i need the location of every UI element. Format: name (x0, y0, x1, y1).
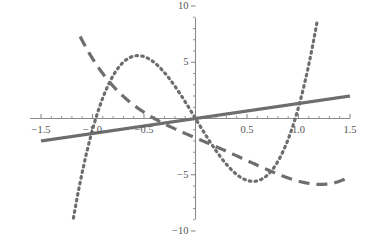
x-tick-label: −1.5 (31, 125, 50, 136)
y-tick-label: 5 (0, 57, 189, 68)
x-tick-label: 1.0 (292, 125, 305, 136)
chart-plot-area (0, 0, 369, 240)
y-tick-label: 10 (0, 1, 189, 12)
x-tick-label: −0.5 (134, 125, 153, 136)
x-tick-label: 1.5 (343, 125, 356, 136)
y-tick-label: −10 (0, 226, 189, 237)
x-tick-label: 0.5 (240, 125, 253, 136)
x-tick-label: −1.0 (83, 125, 102, 136)
y-tick-label: −5 (0, 170, 189, 181)
chart-container: −1.5−1.0−0.50.51.01.5 −10−5510 (0, 0, 369, 240)
